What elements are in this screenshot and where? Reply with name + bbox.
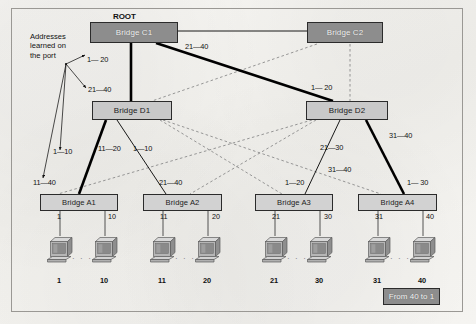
link-label-d1-a1: 11—20	[98, 144, 121, 153]
computer-icons-group	[48, 238, 436, 263]
computer-icon-6	[366, 238, 391, 263]
link-label-c1-d2: 1— 20	[311, 83, 332, 92]
annotation-line-1: Addresses	[30, 32, 66, 41]
computer-icon-4	[263, 238, 288, 263]
link-label-d1-a2: 1—10	[133, 144, 152, 153]
port-number-a1-1: 1	[57, 212, 61, 221]
root-label: ROOT	[113, 12, 136, 21]
link-label-d2-a4: 31—40	[389, 131, 412, 140]
figure-canvas: ROOT Addresses learned on the port Bridg…	[0, 0, 476, 324]
host-number-1: 1	[47, 276, 71, 285]
annotation-line-3: the port	[30, 51, 66, 60]
link-label-a3-top2: 31—40	[328, 165, 351, 174]
host-number-10: 10	[92, 276, 116, 285]
host-number-31: 31	[365, 276, 389, 285]
host-ellipsis-1: · · ·	[175, 254, 195, 263]
port-number-a3-21: 21	[272, 212, 280, 221]
arrow-to-1-20	[66, 55, 85, 64]
host-number-20: 20	[195, 276, 219, 285]
computer-icon-3	[196, 238, 221, 263]
blocked-link-d1-a4	[163, 120, 381, 194]
host-ellipsis-3: · · ·	[390, 254, 410, 263]
port-number-a1-10: 10	[108, 212, 116, 221]
arrow-to-11-40	[43, 64, 66, 178]
annotation-origin-dot	[65, 63, 67, 65]
bridge-box-a2: Bridge A2	[143, 194, 222, 211]
forwarding-link-d2-a3	[305, 120, 340, 194]
host-number-21: 21	[262, 276, 286, 285]
link-label-a3-top: 1—20	[285, 178, 304, 187]
bridge-box-a3: Bridge A3	[255, 194, 333, 211]
legend-from-40-to-1: From 40 to 1	[383, 288, 440, 305]
annotation-label-ann-1-20: 1— 20	[87, 55, 108, 64]
host-ellipsis-2: · · ·	[287, 254, 307, 263]
bridge-box-c2: Bridge C2	[307, 22, 383, 43]
network-topology-svg	[0, 0, 476, 324]
bridge-box-d1: Bridge D1	[92, 101, 172, 120]
port-number-a4-31: 31	[375, 212, 383, 221]
computer-icon-5	[308, 238, 333, 263]
computer-icon-2	[151, 238, 176, 263]
annotation-arrows-group	[43, 55, 86, 178]
host-number-30: 30	[307, 276, 331, 285]
arrow-to-1-10	[60, 64, 66, 150]
port-number-a4-40: 40	[426, 212, 434, 221]
forwarding-link-c1-d2	[156, 43, 333, 101]
link-label-a2-top: 21—40	[159, 178, 182, 187]
link-label-a1-top: 11—40	[33, 178, 56, 187]
port-number-a2-20: 20	[212, 212, 220, 221]
link-label-a4-top: 1— 30	[407, 178, 428, 187]
link-label-d2-a3: 21—30	[320, 143, 343, 152]
blocked-link-c2-d1	[152, 44, 317, 101]
blocked-link-d2-a1	[58, 120, 312, 194]
bridge-box-c1: Bridge C1	[90, 22, 178, 43]
bridge-box-a4: Bridge A4	[358, 194, 437, 211]
link-label-d1-left: 1—10	[53, 147, 72, 156]
annotation-label-ann-21-40: 21—40	[88, 85, 111, 94]
host-number-11: 11	[150, 276, 174, 285]
addresses-learned-annotation: Addresses learned on the port	[30, 32, 66, 60]
port-number-a3-30: 30	[324, 212, 332, 221]
arrow-to-21-40	[66, 64, 86, 88]
computer-icon-7	[411, 238, 436, 263]
link-label-c1-c2: 21—40	[185, 42, 208, 51]
forwarding-link-d1-a1	[79, 120, 106, 194]
computer-icon-0	[48, 238, 73, 263]
computer-icon-1	[93, 238, 118, 263]
bridge-box-d2: Bridge D2	[306, 101, 388, 120]
host-number-40: 40	[410, 276, 434, 285]
port-number-a2-11: 11	[160, 212, 167, 221]
bridge-box-a1: Bridge A1	[40, 194, 118, 211]
host-ellipsis-0: · · ·	[72, 254, 92, 263]
annotation-line-2: learned on	[30, 41, 66, 50]
